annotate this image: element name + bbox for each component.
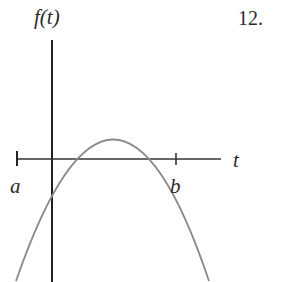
label-a: a: [10, 174, 21, 198]
curve-f: [16, 140, 209, 282]
problem-number: 12.: [238, 7, 263, 29]
graph-canvas: f(t) 12. t a b: [0, 0, 292, 282]
x-axis-label: t: [233, 148, 240, 172]
label-b: b: [170, 174, 181, 198]
y-axis-label: f(t): [34, 5, 60, 29]
